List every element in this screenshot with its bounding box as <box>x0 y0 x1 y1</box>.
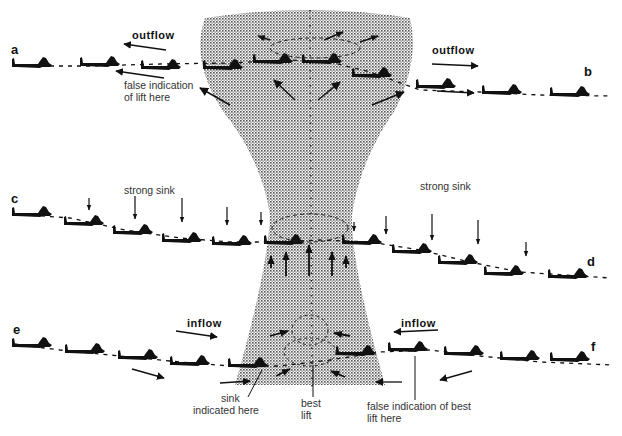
thermal-diagram <box>0 0 622 436</box>
path-start-label-a: a <box>11 42 18 57</box>
path-end-label-d: d <box>587 254 595 269</box>
glider-icon <box>12 206 52 217</box>
glider-icon <box>416 78 456 89</box>
best-lift-note: best lift <box>301 397 321 421</box>
path-start-label-e: e <box>13 322 20 337</box>
inflow-arrow-icon <box>132 369 164 378</box>
sink-indicated-note: sink indicated here <box>193 392 259 416</box>
outflow-label-right: outflow <box>432 44 475 56</box>
glider-icon <box>444 345 484 356</box>
strong-sink-label-right: strong sink <box>420 180 471 192</box>
inflow-label-left: inflow <box>187 317 222 329</box>
inflow-arrow-icon <box>440 371 472 380</box>
path-end-label-f: f <box>591 339 595 354</box>
path-end-label-b: b <box>584 64 592 79</box>
glider-icon <box>550 86 590 97</box>
glider-icon <box>80 56 120 67</box>
inflow-arrow-icon <box>394 330 438 332</box>
false-lift-note: false indication of lift here <box>124 79 193 103</box>
glider-icon <box>12 57 52 68</box>
outflow-arrow-icon <box>124 44 166 50</box>
glider-icon <box>170 355 210 366</box>
path-start-label-c: c <box>11 191 18 206</box>
glider-icon <box>388 341 428 352</box>
glider-icon <box>12 337 52 348</box>
glider-icon <box>550 351 590 362</box>
glider-icon <box>548 268 588 279</box>
glider-icon <box>500 350 540 361</box>
glider-icon <box>113 224 153 235</box>
glider-icon <box>482 84 522 95</box>
outflow-label-left: outflow <box>132 29 175 41</box>
strong-sink-label-left: strong sink <box>124 184 175 196</box>
glider-icon <box>65 343 105 354</box>
glider-icon <box>64 215 104 226</box>
outflow-arrow-icon <box>432 64 478 66</box>
inflow-arrow-icon <box>176 331 217 337</box>
inflow-label-right: inflow <box>401 317 436 329</box>
glider-icon <box>162 232 202 243</box>
outflow-arrow-icon <box>116 71 164 78</box>
glider-icon <box>118 349 158 360</box>
false-best-lift-note: false indication of best lift here <box>367 400 471 424</box>
glider-icon <box>392 243 432 254</box>
glider-icon <box>212 235 252 246</box>
